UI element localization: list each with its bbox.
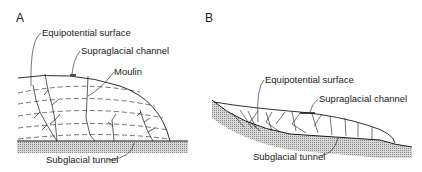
- subglacial-tunnel-label-b: Subglacial tunnel: [253, 152, 325, 162]
- equipotential-lines-a: [18, 86, 170, 139]
- supraglacial-channel-label-b: Supraglacial channel: [319, 94, 407, 104]
- panel-b-diagram: [212, 80, 412, 158]
- englacial-conduits-a: [33, 74, 155, 141]
- bed-rock-a: [17, 141, 188, 153]
- supraglacial-channel-label-a: Supraglacial channel: [81, 46, 169, 56]
- equipotential-surface-label-b: Equipotential surface: [265, 75, 354, 85]
- panel-b-label: B: [205, 12, 213, 24]
- glacier-surface-a: [18, 75, 170, 141]
- subglacial-tunnel-label-a: Subglacial tunnel: [46, 155, 118, 165]
- equipotential-surface-label-a: Equipotential surface: [42, 28, 131, 38]
- panel-a-label: A: [16, 12, 24, 24]
- glacier-drainage-diagram: [0, 0, 422, 172]
- bed-rock-b: [212, 100, 412, 158]
- moulin-label: Moulin: [114, 67, 142, 77]
